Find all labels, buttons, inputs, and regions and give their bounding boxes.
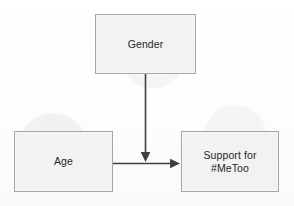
node-support-for-metoo[interactable]: Support for #MeToo: [181, 131, 279, 192]
diagram-canvas: Gender Age Support for #MeToo: [0, 0, 294, 206]
node-gender-label: Gender: [124, 38, 168, 51]
node-support-for-metoo-label: Support for #MeToo: [199, 149, 260, 175]
node-gender[interactable]: Gender: [95, 14, 196, 74]
node-age[interactable]: Age: [14, 131, 113, 192]
node-age-label: Age: [50, 155, 77, 168]
